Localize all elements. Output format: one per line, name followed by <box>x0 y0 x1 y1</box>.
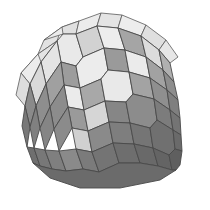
polyhedron-face-t-sliver-5 <box>97 13 122 28</box>
rhombic-zonohedron-figure: Rhombic zonohedron <box>0 0 210 210</box>
polyhedron-face-f-r3-5 <box>101 70 133 102</box>
